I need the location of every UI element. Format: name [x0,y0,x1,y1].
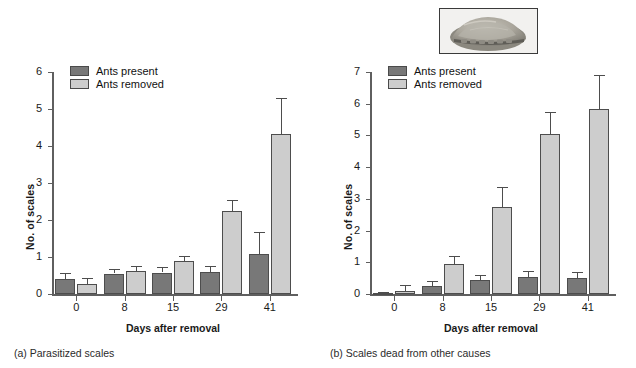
error-bar-cap-b-15-0 [475,275,486,276]
error-bar-cap-b-41-0 [572,272,583,273]
bar-b-8-ants-present [422,286,442,294]
x-tick-label-b-0: 0 [379,302,409,313]
y-tick-label-b-0: 0 [338,288,360,299]
x-tick-label-b-8: 8 [428,302,458,313]
error-bar-stem-b-15-1 [502,187,503,207]
figure-root: No. of scales Days after removal Ants pr… [0,0,636,368]
error-bar-stem-b-8-1 [454,256,455,264]
error-bar-stem-b-29-1 [550,112,551,134]
error-bar-cap-b-29-1 [545,112,556,113]
y-tick-b-1 [366,262,371,263]
y-tick-b-7 [366,72,371,73]
y-tick-label-b-5: 5 [338,129,360,140]
y-tick-label-b-2: 2 [338,225,360,236]
y-tick-b-5 [366,135,371,136]
error-bar-cap-b-15-1 [497,187,508,188]
y-tick-b-4 [366,167,371,168]
y-tick-label-b-1: 1 [338,256,360,267]
y-tick-label-b-4: 4 [338,161,360,172]
x-tick-label-b-15: 15 [476,302,506,313]
error-bar-cap-b-8-0 [427,281,438,282]
error-bar-cap-b-41-1 [594,75,605,76]
y-tick-b-0 [366,294,371,295]
bar-b-15-ants-removed [492,207,512,294]
bar-b-0-ants-removed [395,291,415,294]
x-axis-line-b [370,294,616,296]
x-tick-label-b-29: 29 [524,302,554,313]
y-tick-label-b-3: 3 [338,193,360,204]
bar-b-8-ants-removed [444,264,464,294]
bar-b-29-ants-present [518,277,538,294]
error-bar-cap-b-0-1 [400,285,411,286]
y-tick-label-b-6: 6 [338,98,360,109]
bar-b-41-ants-present [567,278,587,294]
bar-b-29-ants-removed [540,134,560,294]
error-bar-stem-b-41-1 [599,75,600,110]
y-tick-b-3 [366,199,371,200]
bar-b-0-ants-present [373,293,393,295]
y-tick-b-6 [366,104,371,105]
y-tick-b-2 [366,231,371,232]
y-tick-label-b-7: 7 [338,66,360,77]
error-bar-cap-b-29-0 [523,271,534,272]
bar-b-15-ants-present [470,280,490,294]
x-tick-label-b-41: 41 [573,302,603,313]
plot-b: 0123456708152941 [0,0,636,368]
bar-b-41-ants-removed [589,109,609,294]
error-bar-cap-b-0-0 [378,292,389,293]
error-bar-cap-b-8-1 [449,256,460,257]
